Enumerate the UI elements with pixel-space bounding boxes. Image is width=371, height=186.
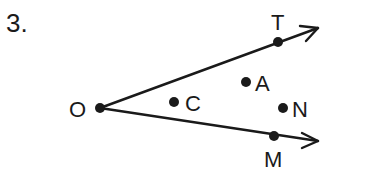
point-o-dot xyxy=(95,103,105,113)
point-t-dot xyxy=(273,37,283,47)
ray-om-line xyxy=(100,108,318,141)
point-m-dot xyxy=(269,131,279,141)
point-a: A xyxy=(241,71,270,96)
point-c-label: C xyxy=(185,91,201,116)
ray-ot-line xyxy=(100,28,318,108)
point-o: O xyxy=(69,97,105,122)
point-o-label: O xyxy=(69,97,86,122)
point-n-dot xyxy=(278,103,288,113)
point-a-dot xyxy=(241,77,251,87)
problem-number: 3. xyxy=(6,8,28,38)
point-m: M xyxy=(264,131,282,172)
point-n: N xyxy=(278,97,308,122)
point-m-label: M xyxy=(264,147,282,172)
angle-diagram: 3. O T A C N M xyxy=(0,0,371,186)
point-n-label: N xyxy=(292,97,308,122)
ray-ot xyxy=(100,26,318,108)
point-c: C xyxy=(169,91,201,116)
point-a-label: A xyxy=(255,71,270,96)
point-t: T xyxy=(271,10,284,47)
point-t-label: T xyxy=(271,10,284,35)
ray-om xyxy=(100,108,318,148)
point-c-dot xyxy=(169,97,179,107)
